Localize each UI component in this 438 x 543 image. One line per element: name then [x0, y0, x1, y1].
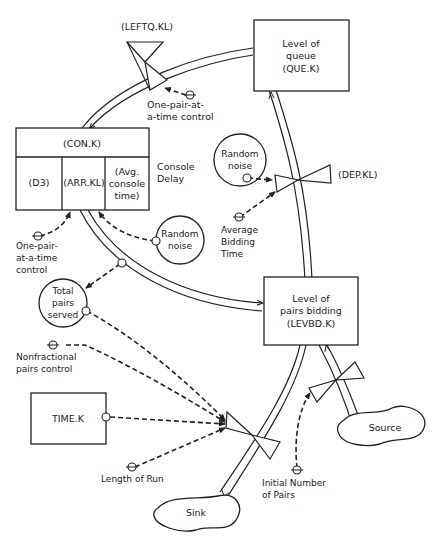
- info-link-length-of-run: Length of Run: [101, 428, 225, 484]
- svg-text:(CON.K): (CON.K): [63, 138, 101, 149]
- level-pairs-bidding-box: Level of pairs bidding (LEVBD.K): [264, 277, 358, 345]
- svg-text:pairs bidding: pairs bidding: [280, 305, 342, 316]
- sink-cloud: Sink: [154, 495, 240, 531]
- svg-text:Source: Source: [369, 422, 402, 433]
- svg-text:One-pair-: One-pair-: [16, 241, 58, 251]
- svg-text:Bidding: Bidding: [221, 237, 255, 247]
- svg-text:(QUE.K): (QUE.K): [282, 63, 319, 74]
- svg-text:Average: Average: [221, 225, 258, 235]
- svg-text:Time: Time: [220, 249, 243, 259]
- rate-valve-output: [226, 412, 280, 459]
- svg-text:Level of: Level of: [282, 38, 320, 49]
- source-cloud: Source: [337, 406, 424, 445]
- svg-text:One-pair-at-: One-pair-at-: [147, 99, 204, 110]
- svg-text:noise: noise: [228, 161, 252, 171]
- svg-text:Random: Random: [221, 149, 258, 159]
- svg-text:(D3): (D3): [29, 177, 50, 188]
- svg-text:(LEVBD.K): (LEVBD.K): [287, 318, 335, 329]
- svg-text:(Avg.: (Avg.: [115, 166, 139, 177]
- info-link-time: [102, 413, 225, 424]
- svg-text:Random: Random: [161, 229, 198, 239]
- info-link-average-bidding-time: Average Bidding Time: [220, 192, 275, 259]
- svg-text:(ARR.KL): (ARR.KL): [63, 177, 104, 188]
- svg-text:Level of: Level of: [292, 293, 330, 304]
- svg-text:noise: noise: [168, 241, 192, 251]
- info-link-random-noise-mid: [99, 212, 160, 245]
- info-link-one-pair-top: One-pair-at- a-time control: [147, 88, 214, 122]
- console-delay-label: Console: [157, 161, 195, 172]
- console-delay-label-2: Delay: [157, 173, 185, 184]
- svg-text:of Pairs: of Pairs: [262, 490, 295, 500]
- svg-text:TIME.K: TIME.K: [51, 413, 85, 424]
- flow-bidding-to-queue: [269, 90, 312, 280]
- svg-text:pairs control: pairs control: [16, 364, 72, 374]
- svg-text:queue: queue: [286, 50, 316, 61]
- svg-text:control: control: [16, 265, 47, 275]
- svg-text:time): time): [114, 190, 139, 201]
- svg-text:Nonfractional: Nonfractional: [16, 352, 77, 362]
- svg-text:served: served: [48, 310, 79, 320]
- svg-text:(LEFTQ.KL): (LEFTQ.KL): [121, 21, 173, 32]
- svg-text:console: console: [109, 178, 145, 189]
- svg-text:pairs: pairs: [52, 298, 74, 308]
- svg-text:Sink: Sink: [186, 507, 207, 518]
- svg-text:(DEP.KL): (DEP.KL): [338, 169, 378, 180]
- random-noise-mid-circle: Random noise: [156, 216, 204, 264]
- level-queue-box: Level of queue (QUE.K): [254, 20, 349, 91]
- console-delay-box: (CON.K) (D3) (ARR.KL) (Avg. console time…: [16, 128, 149, 210]
- svg-text:Total: Total: [51, 286, 73, 296]
- total-pairs-served-circle: Total pairs served: [39, 279, 87, 327]
- system-dynamics-diagram: Level of queue (QUE.K) Level of pairs bi…: [0, 0, 438, 543]
- info-link-to-total-pairs: [86, 259, 126, 288]
- svg-text:Initial Number: Initial Number: [262, 478, 326, 488]
- svg-text:a-time control: a-time control: [147, 111, 214, 122]
- svg-text:Length of Run: Length of Run: [101, 474, 164, 484]
- time-level-box: TIME.K: [31, 393, 106, 444]
- svg-text:at-a-time: at-a-time: [16, 253, 58, 263]
- info-link-one-pair-left: One-pair- at-a-time control: [16, 212, 70, 275]
